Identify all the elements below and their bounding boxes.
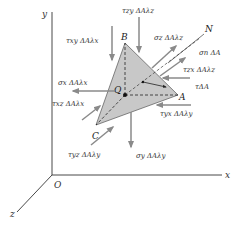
label-tau-xz: τxz ΔAλx bbox=[52, 100, 84, 108]
label-sigma-z: σz ΔAλz bbox=[154, 34, 183, 42]
point-a-label: A bbox=[178, 92, 186, 102]
stress-tetrahedron-diagram: y x z O B A C Q N τzy ΔAλz τxy ΔAλx bbox=[0, 0, 237, 227]
point-q bbox=[123, 93, 127, 97]
label-tau-yx: τyx ΔAλy bbox=[160, 110, 194, 118]
normal-n-label: N bbox=[204, 24, 214, 34]
label-tau-zy: τzy ΔAλz bbox=[122, 7, 154, 15]
arrow-sigma-n bbox=[160, 58, 185, 76]
x-axis-label: x bbox=[225, 170, 230, 180]
arrow-tau-xz bbox=[82, 106, 100, 120]
z-axis bbox=[17, 175, 52, 212]
origin-label: O bbox=[54, 180, 62, 190]
label-tau-xy: τxy ΔAλx bbox=[66, 37, 99, 45]
point-b-label: B bbox=[120, 32, 128, 42]
y-axis-label: y bbox=[41, 9, 48, 19]
label-tau-zx: τzx ΔAλz bbox=[183, 66, 215, 74]
label-tau-yz: τyz ΔAλy bbox=[68, 151, 101, 159]
z-axis-label: z bbox=[9, 209, 15, 219]
label-tau: τΔA bbox=[195, 83, 209, 91]
label-sigma-n: σn ΔA bbox=[199, 49, 221, 57]
point-q-label: Q bbox=[114, 85, 122, 95]
label-sigma-y: σy ΔAλy bbox=[136, 152, 167, 160]
label-sigma-x: σx ΔAλx bbox=[58, 79, 87, 87]
arrow-sigma-z bbox=[152, 46, 176, 68]
